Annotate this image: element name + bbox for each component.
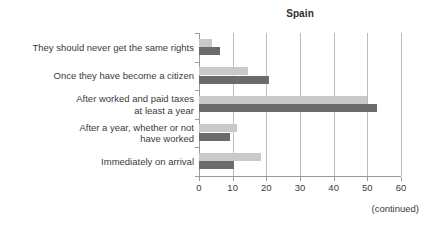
y-tick-0: [195, 33, 199, 34]
category-label-1: Once they have become a citizen: [54, 70, 194, 82]
bar-group: [199, 147, 401, 176]
bar-series-dark: [199, 76, 269, 84]
y-tick-2: [195, 90, 199, 91]
x-tick-40: [334, 177, 335, 181]
bar-series-dark: [199, 161, 234, 169]
bar-series-light: [199, 124, 237, 132]
page-title: Spain: [199, 8, 401, 19]
x-tick-60: [401, 177, 402, 181]
category-label-4: Immediately on arrival: [101, 156, 194, 168]
x-tick-20: [266, 177, 267, 181]
bar-group: [199, 90, 401, 119]
x-tick-label-20: 20: [254, 182, 278, 193]
bar-group: [199, 119, 401, 148]
bar-series-dark: [199, 104, 377, 112]
x-tick-label-0: 0: [187, 182, 211, 193]
bar-series-light: [199, 67, 248, 75]
gridline-60: [401, 33, 402, 176]
x-tick-30: [300, 177, 301, 181]
plot-area: [199, 33, 401, 176]
x-tick-label-40: 40: [322, 182, 346, 193]
y-tick-3: [195, 119, 199, 120]
chart-figure: Spain They should never get the same rig…: [0, 0, 431, 229]
category-label-3: After a year, whether or not have worked: [79, 122, 194, 145]
bar-series-dark: [199, 133, 230, 141]
x-tick-0: [199, 177, 200, 181]
bar-series-light: [199, 153, 261, 161]
y-tick-4: [195, 147, 199, 148]
x-tick-50: [367, 177, 368, 181]
bar-series-dark: [199, 47, 220, 55]
x-tick-label-50: 50: [355, 182, 379, 193]
bar-series-light: [199, 39, 212, 47]
y-tick-1: [195, 62, 199, 63]
x-tick-label-10: 10: [221, 182, 245, 193]
bar-series-light: [199, 96, 367, 104]
x-tick-10: [233, 177, 234, 181]
continued-note: (continued): [371, 203, 419, 214]
bar-group: [199, 33, 401, 62]
category-label-2: After worked and paid taxes at least a y…: [76, 93, 194, 116]
x-tick-label-30: 30: [288, 182, 312, 193]
x-tick-label-60: 60: [389, 182, 413, 193]
category-label-0: They should never get the same rights: [32, 42, 194, 54]
bar-group: [199, 62, 401, 91]
